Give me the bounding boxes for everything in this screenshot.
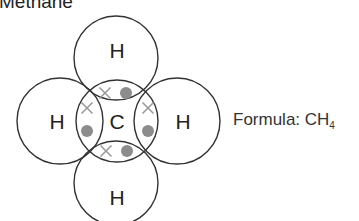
formula-label: Formula: CH4 [233, 110, 335, 131]
electron-dot-icon [81, 125, 93, 137]
electron-dot-icon [120, 87, 132, 99]
atom-label-bottom: H [109, 186, 124, 209]
electron-dot-icon [121, 145, 133, 157]
formula-subscript: 4 [329, 120, 335, 131]
atom-label-center: C [109, 110, 124, 133]
atom-label-top: H [109, 39, 124, 62]
atom-label-right: H [175, 110, 190, 133]
atom-label-left: H [49, 110, 64, 133]
hydrogen-shell-bottom [74, 141, 158, 221]
electron-dot-icon [142, 125, 154, 137]
